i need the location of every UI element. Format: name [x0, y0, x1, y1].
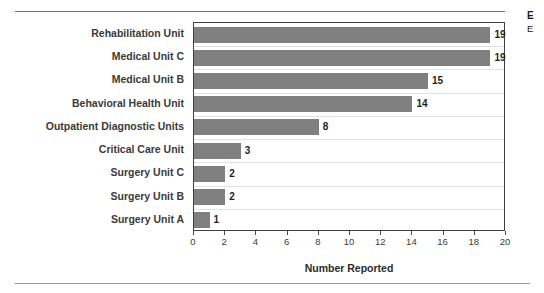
x-tick-mark — [224, 231, 225, 235]
bar-value-label: 14 — [416, 96, 427, 112]
x-tick-label: 18 — [469, 236, 480, 247]
category-label: Outpatient Diagnostic Units — [46, 115, 184, 138]
bar-value-label: 19 — [494, 50, 505, 66]
bar[interactable] — [194, 119, 319, 135]
x-tick-label: 0 — [190, 236, 195, 247]
x-tick-mark — [193, 231, 194, 235]
x-tick-mark — [318, 231, 319, 235]
plot-area: 1919151483221 — [193, 22, 505, 231]
bar-row: 19 — [194, 46, 504, 69]
bar-value-label: 19 — [494, 27, 505, 43]
bar[interactable] — [194, 143, 241, 159]
x-tick-label: 4 — [253, 236, 258, 247]
bar-value-label: 3 — [245, 143, 251, 159]
bar-row: 14 — [194, 93, 504, 116]
bar[interactable] — [194, 73, 428, 89]
bar-row: 19 — [194, 23, 504, 46]
x-tick-mark — [443, 231, 444, 235]
category-axis: Rehabilitation UnitMedical Unit CMedical… — [8, 22, 189, 231]
x-tick-label: 6 — [284, 236, 289, 247]
category-label: Medical Unit B — [112, 68, 184, 91]
bar-value-label: 2 — [229, 189, 235, 205]
bar-row: 2 — [194, 186, 504, 209]
x-tick-label: 14 — [406, 236, 417, 247]
bar-row: 3 — [194, 139, 504, 162]
bar[interactable] — [194, 189, 225, 205]
category-label: Surgery Unit B — [110, 185, 184, 208]
x-tick-mark — [287, 231, 288, 235]
category-label: Medical Unit C — [112, 45, 184, 68]
bar-value-label: 2 — [229, 166, 235, 182]
bar[interactable] — [194, 166, 225, 182]
bar-chart: Rehabilitation UnitMedical Unit CMedical… — [0, 0, 544, 293]
x-tick-mark — [380, 231, 381, 235]
bar[interactable] — [194, 27, 490, 43]
bar-row: 8 — [194, 116, 504, 139]
x-tick-mark — [411, 231, 412, 235]
x-tick-label: 16 — [437, 236, 448, 247]
bar-value-label: 1 — [214, 212, 220, 228]
x-tick-label: 2 — [222, 236, 227, 247]
bar[interactable] — [194, 212, 210, 228]
category-label: Surgery Unit A — [111, 208, 184, 231]
bar-value-label: 8 — [323, 119, 329, 135]
x-tick-mark — [255, 231, 256, 235]
x-tick-label: 20 — [500, 236, 511, 247]
category-label: Critical Care Unit — [99, 138, 184, 161]
bar-value-label: 15 — [432, 73, 443, 89]
x-axis: 02468101214161820 — [193, 231, 505, 249]
x-axis-title: Number Reported — [193, 262, 505, 274]
bar[interactable] — [194, 50, 490, 66]
bar-row: 15 — [194, 69, 504, 92]
x-tick-mark — [474, 231, 475, 235]
bar-row: 1 — [194, 209, 504, 232]
category-label: Rehabilitation Unit — [91, 22, 184, 45]
x-tick-mark — [505, 231, 506, 235]
page-root: E E Rehabilitation UnitMedical Unit CMed… — [0, 0, 544, 293]
x-tick-label: 12 — [375, 236, 386, 247]
bar-row: 2 — [194, 162, 504, 185]
category-label: Behavioral Health Unit — [72, 92, 184, 115]
x-tick-label: 8 — [315, 236, 320, 247]
x-tick-label: 10 — [344, 236, 355, 247]
category-label: Surgery Unit C — [110, 161, 184, 184]
x-tick-mark — [349, 231, 350, 235]
bar[interactable] — [194, 96, 412, 112]
